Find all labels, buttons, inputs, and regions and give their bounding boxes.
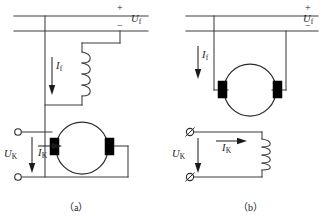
figure-root: + − Uf If UK IK （a） + − Uf If UK IK （b）: [0, 0, 331, 223]
panel-a-terminal-voltage-arrow: [29, 137, 35, 173]
panel-b-starting-coil: [262, 139, 270, 170]
panel-a-armature-current-symbol: I: [38, 147, 42, 158]
panel-b-terminal-top[interactable]: [185, 128, 194, 137]
panel-a-field-coil: [82, 52, 90, 96]
circuit-diagram-svg: [0, 0, 331, 223]
panel-a-terminal-top[interactable]: [15, 129, 22, 136]
panel-b-terminal-bottom[interactable]: [185, 173, 194, 182]
panel-b-armature-current-label: IK: [222, 143, 231, 154]
panel-a-minus-sign: −: [117, 21, 123, 31]
panel-b-armature-current-subscript: K: [226, 146, 231, 155]
panel-b-supply-voltage-label: Uf: [303, 14, 313, 25]
panel-b-caption: （b）: [238, 203, 263, 213]
panel-b-field-current-subscript: f: [206, 53, 209, 62]
panel-b-field-current-symbol: I: [202, 49, 206, 60]
panel-b-brush-left: [218, 81, 227, 98]
panel-a-field-current-subscript: f: [60, 64, 63, 73]
panel-b-armature-current-arrow: [216, 138, 247, 144]
panel-b-field-current-label: If: [202, 50, 208, 61]
panel-a-armature-current-label: IK: [38, 148, 47, 159]
panel-a-plus-sign: +: [117, 3, 123, 13]
panel-a-caption: （a）: [64, 203, 88, 213]
panel-a-field-current-symbol: I: [56, 60, 60, 71]
panel-a-terminal-voltage-subscript: K: [12, 152, 17, 161]
panel-a-terminal-voltage-label: UK: [4, 149, 17, 160]
panel-a-field-current-arrow: [49, 57, 55, 95]
panel-b-supply-voltage-symbol: U: [303, 13, 311, 24]
panel-b-terminal-voltage-arrow: [195, 138, 201, 173]
panel-b-supply-voltage-subscript: f: [311, 17, 314, 26]
panel-a-field-current-label: If: [56, 61, 62, 72]
panel-a-terminal-voltage-symbol: U: [4, 148, 12, 159]
panel-b-brush-right: [273, 81, 282, 98]
panel-b-terminal-voltage-symbol: U: [172, 148, 180, 159]
panel-b-machine-circle: [224, 64, 276, 116]
panel-b-plus-sign: +: [305, 3, 311, 13]
panel-a-supply-voltage-subscript: f: [139, 17, 142, 26]
panel-b-armature-current-symbol: I: [222, 142, 226, 153]
panel-a-brush-right: [105, 138, 114, 155]
panel-a-supply-voltage-symbol: U: [131, 13, 139, 24]
panel-b-terminal-voltage-label: UK: [172, 149, 185, 160]
panel-a-supply-voltage-label: Uf: [131, 14, 141, 25]
panel-b-field-current-arrow: [195, 46, 201, 79]
panel-b-graphics: [185, 16, 318, 181]
panel-a-terminal-bottom[interactable]: [15, 174, 22, 181]
panel-a-graphics: [14, 16, 148, 180]
panel-a-armature-current-subscript: K: [42, 151, 47, 160]
panel-b-terminal-voltage-subscript: K: [180, 152, 185, 161]
panel-a-machine-circle: [56, 122, 108, 174]
